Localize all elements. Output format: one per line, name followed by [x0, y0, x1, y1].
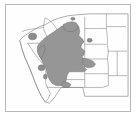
disjunct-patch-colorado-river — [43, 74, 47, 79]
map-canvas — [6, 5, 130, 111]
disjunct-patch-south-dakota — [87, 38, 92, 42]
range-map-figure: Western United States distribution range… — [0, 0, 137, 119]
figure-title: Western United States distribution range… — [0, 0, 1, 1]
disjunct-patch-north-plains — [71, 17, 75, 20]
disjunct-patch-oregon — [28, 33, 36, 40]
disjunct-patch-southeast-california — [38, 65, 45, 71]
map-frame — [5, 4, 131, 112]
